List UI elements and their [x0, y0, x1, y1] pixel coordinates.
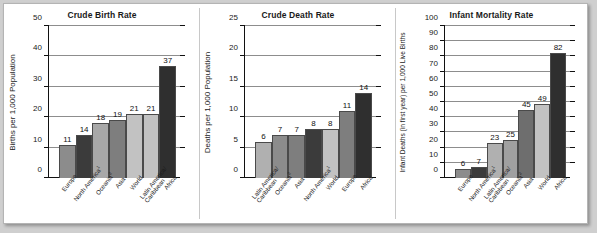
bar-slot[interactable]: 18: [92, 26, 109, 178]
bar-value-label: 7: [471, 157, 487, 166]
x-label-slot: Europe: [455, 180, 471, 233]
bar[interactable]: [288, 135, 305, 178]
bar[interactable]: [518, 110, 534, 178]
bar-value-label: 23: [487, 133, 503, 142]
bar-group: 672325454982: [444, 26, 570, 178]
chart-panel-crude-birth-rate: Crude Birth Rate Births per 1,000 Popula…: [4, 4, 200, 223]
x-label-slot: World: [126, 180, 143, 233]
bar-slot[interactable]: 23: [487, 26, 503, 178]
bar[interactable]: [339, 111, 356, 178]
bar[interactable]: [143, 114, 160, 178]
y-tick-outer: [180, 147, 185, 148]
x-axis-labels: Latin America/CaribbeanOceania2AsiaNorth…: [244, 180, 376, 233]
bar-value-label: 21: [126, 104, 143, 113]
y-tick-label: 25: [229, 13, 238, 22]
y-tick-label: 100: [425, 13, 438, 22]
bar-slot[interactable]: 11: [339, 26, 356, 178]
bar-value-label: 82: [550, 43, 566, 52]
x-label-slot: Africa: [550, 180, 566, 233]
y-tick-label: 60: [429, 73, 438, 82]
bar-slot[interactable]: 21: [126, 26, 143, 178]
bar-slot[interactable]: 37: [159, 26, 176, 178]
x-label-slot: World: [322, 180, 339, 233]
y-tick-outer: [376, 116, 381, 117]
y-tick-label: 40: [33, 43, 42, 52]
bar-value-label: 8: [322, 119, 339, 128]
x-tick-label: Asia: [114, 176, 127, 190]
y-tick-outer: [376, 86, 381, 87]
y-axis-label: Deaths per 1,000 Population: [202, 26, 214, 178]
bar-slot[interactable]: 11: [59, 26, 76, 178]
x-label-slot: Latin America/Caribbean: [487, 180, 503, 233]
x-label-slot: Asia: [288, 180, 305, 233]
y-tick-label: 10: [229, 104, 238, 113]
y-tick-outer: [570, 40, 575, 41]
bar[interactable]: [126, 114, 143, 178]
bar-slot[interactable]: 14: [76, 26, 93, 178]
x-label-slot: Oceania2: [272, 180, 289, 233]
x-tick-label: Asia: [293, 176, 306, 190]
y-tick-label: 0: [234, 165, 238, 174]
bar-slot[interactable]: 7: [288, 26, 305, 178]
bar-value-label: 19: [109, 110, 126, 119]
bar-slot[interactable]: 14: [355, 26, 372, 178]
bar-value-label: 37: [159, 56, 176, 65]
plot-area: 0510152025677881114: [244, 26, 376, 178]
y-tick-outer: [570, 162, 575, 163]
plot-area: 0102030405060708090100672325454982: [444, 26, 570, 178]
y-tick-outer: [180, 25, 185, 26]
charts-container: Crude Birth Rate Births per 1,000 Popula…: [4, 4, 587, 223]
x-label-slot: Latin America/Caribbean: [143, 180, 160, 233]
bar[interactable]: [159, 66, 176, 178]
y-tick-label: 40: [429, 104, 438, 113]
bar-slot[interactable]: 19: [109, 26, 126, 178]
y-tick-label: 90: [429, 28, 438, 37]
y-tick-label: 10: [33, 134, 42, 143]
bar-slot[interactable]: 7: [471, 26, 487, 178]
x-label-slot: Africa: [355, 180, 372, 233]
y-tick-label: 50: [33, 13, 42, 22]
bar-value-label: 14: [355, 83, 372, 92]
bar-slot[interactable]: 49: [534, 26, 550, 178]
y-tick-outer: [180, 116, 185, 117]
bar-slot[interactable]: 21: [143, 26, 160, 178]
y-tick-label: 0: [38, 165, 42, 174]
y-tick-label: 20: [429, 134, 438, 143]
x-label-slot: Africa: [159, 180, 176, 233]
x-label-slot: Europe: [339, 180, 356, 233]
bar[interactable]: [355, 93, 372, 178]
bar-value-label: 45: [518, 100, 534, 109]
bar[interactable]: [305, 129, 322, 178]
y-tick-outer: [570, 55, 575, 56]
plot-area: 0102030405011141819212137: [48, 26, 180, 178]
figure-frame: Crude Birth Rate Births per 1,000 Popula…: [3, 3, 588, 224]
bar-slot[interactable]: 8: [305, 26, 322, 178]
bar-value-label: 6: [255, 132, 272, 141]
bar-slot[interactable]: 7: [272, 26, 289, 178]
y-tick-outer: [180, 86, 185, 87]
y-tick-label: 0: [434, 165, 438, 174]
bar[interactable]: [550, 53, 566, 178]
bar-value-label: 7: [272, 125, 289, 134]
bar-slot[interactable]: 6: [255, 26, 272, 178]
y-tick-outer: [180, 55, 185, 56]
y-tick-outer: [570, 131, 575, 132]
bar-value-label: 18: [92, 113, 109, 122]
y-tick-label: 15: [229, 73, 238, 82]
chart-panel-crude-death-rate: Crude Death Rate Deaths per 1,000 Popula…: [200, 4, 396, 223]
y-tick-outer: [376, 25, 381, 26]
bar-slot[interactable]: 82: [550, 26, 566, 178]
x-axis-labels: EuropeNorth America1Latin America/Caribb…: [444, 180, 570, 233]
y-tick-label: 70: [429, 58, 438, 67]
bar-slot[interactable]: 25: [503, 26, 519, 178]
x-label-slot: Oceania2: [92, 180, 109, 233]
bar-slot[interactable]: 45: [518, 26, 534, 178]
bar-value-label: 6: [455, 159, 471, 168]
y-tick-label: 30: [429, 119, 438, 128]
bar[interactable]: [109, 120, 126, 178]
bar-slot[interactable]: 6: [455, 26, 471, 178]
bar-value-label: 7: [288, 125, 305, 134]
bar-slot[interactable]: 8: [322, 26, 339, 178]
y-axis-label: Infant Deaths (in first year) per 1,000 …: [396, 26, 408, 178]
bar[interactable]: [534, 104, 550, 178]
